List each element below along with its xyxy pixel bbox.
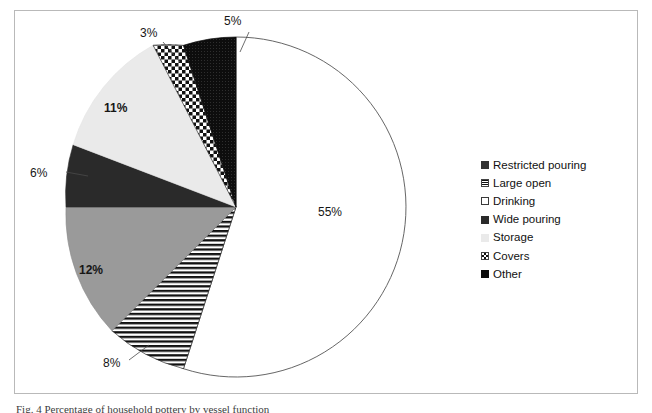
legend-item-large-open[interactable]: Large open [481,174,621,192]
legend-item-wide-pouring[interactable]: Wide pouring [481,211,621,229]
legend-item-other[interactable]: Other [481,265,621,283]
legend-swatch-icon [481,179,489,187]
legend-label: Storage [493,231,533,244]
legend-swatch-icon [481,270,489,278]
legend-item-storage[interactable]: Storage [481,229,621,247]
chart-legend: Restricted pouring Large open Drinking W… [481,156,621,283]
legend-swatch-icon [481,234,489,242]
legend-swatch-icon [481,161,489,169]
legend-item-drinking[interactable]: Drinking [481,192,621,210]
legend-label: Drinking [493,195,535,208]
pie-label-6: 6% [30,166,47,180]
legend-label: Large open [493,177,551,190]
pie-label-55: 55% [318,205,342,219]
legend-label: Other [493,268,522,281]
legend-swatch-icon [481,197,489,205]
legend-item-restricted-pouring[interactable]: Restricted pouring [481,156,621,174]
legend-swatch-icon [481,216,489,224]
legend-swatch-icon [481,252,489,260]
pie-label-3: 3% [140,26,157,40]
legend-item-covers[interactable]: Covers [481,247,621,265]
pie-label-12: 12% [79,263,103,277]
pie-label-11: 11% [104,101,127,115]
legend-label: Restricted pouring [493,159,586,172]
pie-label-8: 8% [103,356,120,370]
figure-caption: Fig. 4 Percentage of household pottery b… [16,403,636,413]
figure-container: 55% 8% 12% 6% 11% 3% 5% Restricted pouri… [0,0,652,413]
pie-label-5: 5% [224,14,241,28]
legend-label: Covers [493,250,529,263]
legend-label: Wide pouring [493,213,561,226]
